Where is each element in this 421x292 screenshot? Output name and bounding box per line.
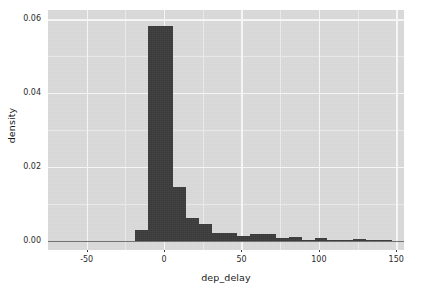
histogram-bar (263, 234, 276, 241)
gridline-minor-horizontal (48, 56, 404, 57)
x-tick-label: 150 (376, 255, 416, 264)
x-tick-label: 100 (299, 255, 339, 264)
histogram-bar (186, 218, 199, 241)
histogram-bar (225, 233, 238, 241)
gridline-minor-vertical (203, 10, 204, 250)
histogram-bar (250, 234, 263, 241)
histogram-bar (199, 224, 212, 241)
x-axis-title: dep_delay (48, 272, 404, 283)
histogram-bar (135, 230, 148, 241)
plot-panel (48, 10, 404, 250)
gridline-major-vertical (87, 10, 88, 250)
y-tick-label: 0.04 (11, 89, 41, 97)
gridline-major-horizontal (48, 167, 404, 168)
gridline-major-vertical (396, 10, 397, 250)
histogram-plot: density dep_delay 0.000.020.040.06 -5005… (0, 0, 421, 292)
histogram-bar (148, 26, 161, 241)
y-tick-label: 0.00 (11, 237, 41, 245)
gridline-minor-horizontal (48, 130, 404, 131)
gridline-major-horizontal (48, 19, 404, 20)
histogram-bar (160, 26, 173, 241)
y-tick-label: 0.06 (11, 15, 41, 23)
histogram-bar (212, 233, 225, 241)
gridline-minor-horizontal (48, 204, 404, 205)
gridline-major-horizontal (48, 93, 404, 94)
gridline-minor-vertical (358, 10, 359, 250)
gridline-major-vertical (319, 10, 320, 250)
x-tick-label: 0 (144, 255, 184, 264)
gridline-major-vertical (241, 10, 242, 250)
y-axis-ticks: 0.000.020.040.06 (8, 0, 41, 292)
y-tick-label: 0.02 (11, 163, 41, 171)
gridline-minor-vertical (125, 10, 126, 250)
x-tick-label: -50 (67, 255, 107, 264)
x-tick-label: 50 (221, 255, 261, 264)
histogram-bar (173, 187, 186, 241)
gridline-minor-vertical (280, 10, 281, 250)
zero-baseline (48, 241, 404, 242)
